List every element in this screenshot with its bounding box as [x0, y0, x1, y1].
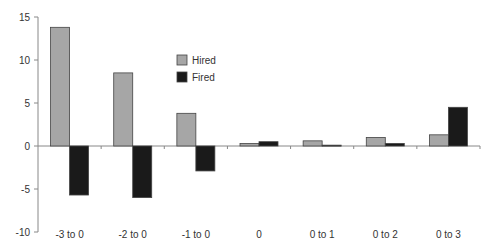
legend-swatch-fired: [177, 72, 187, 82]
y-tick-label: 10: [19, 55, 31, 66]
legend: HiredFired: [177, 55, 216, 83]
legend-label-fired: Fired: [192, 72, 215, 83]
x-tick-label: 0 to 1: [310, 229, 335, 240]
bar-hired: [429, 135, 448, 146]
y-tick-label: 15: [19, 12, 31, 23]
legend-label-hired: Hired: [192, 55, 216, 66]
bar-hired: [51, 27, 70, 146]
legend-swatch-hired: [177, 55, 187, 65]
x-tick-label: 0 to 2: [373, 229, 398, 240]
y-tick-label: 0: [24, 141, 30, 152]
y-tick-label: -10: [16, 227, 31, 238]
bar-chart: 151050-5-10 -3 to 0-2 to 0-1 to 000 to 1…: [0, 0, 500, 248]
y-axis: 151050-5-10: [16, 12, 38, 238]
x-tick-label: -1 to 0: [182, 229, 211, 240]
x-tick-label: 0: [256, 229, 262, 240]
bar-fired: [196, 146, 215, 171]
bar-hired: [114, 73, 133, 146]
bar-fired: [133, 146, 152, 198]
bar-hired: [240, 143, 259, 146]
x-axis: -3 to 0-2 to 0-1 to 000 to 10 to 20 to 3: [38, 146, 480, 240]
bar-fired: [322, 145, 341, 146]
y-tick-label: 5: [24, 98, 30, 109]
bar-hired: [303, 141, 322, 146]
bar-fired: [385, 143, 404, 146]
bar-fired: [448, 107, 467, 146]
x-tick-label: -2 to 0: [119, 229, 148, 240]
bars: [51, 27, 468, 197]
bar-fired: [70, 146, 89, 195]
x-tick-label: 0 to 3: [436, 229, 461, 240]
bar-fired: [259, 142, 278, 146]
x-tick-label: -3 to 0: [55, 229, 84, 240]
bar-hired: [366, 137, 385, 146]
y-tick-label: -5: [21, 184, 30, 195]
bar-hired: [177, 113, 196, 146]
